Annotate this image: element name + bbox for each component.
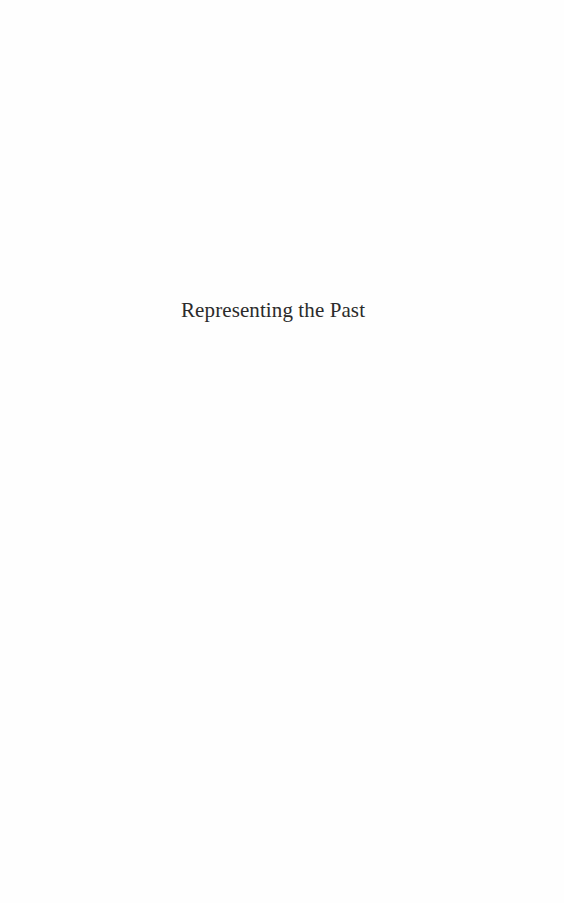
book-page: Representing the Past	[0, 0, 564, 903]
half-title: Representing the Past	[181, 298, 365, 323]
